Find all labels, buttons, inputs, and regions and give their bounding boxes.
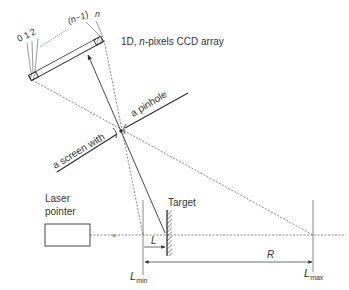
pixel-n-minus-1-label: (n−1) <box>66 9 89 26</box>
triangulation-diagram: 0 1 2 (n−1) n 1D, n-pixels CCD array a s… <box>0 0 349 290</box>
target <box>167 210 172 256</box>
lmax-label: Lmax <box>304 267 324 281</box>
ccd-array <box>29 36 104 80</box>
lmin-sub: min <box>136 277 147 284</box>
beam-cross-mark: × <box>112 232 116 239</box>
l-label: L <box>151 235 157 246</box>
screen-with-pinhole <box>57 93 188 172</box>
ccd-array-label: 1D, n-pixels CCD array <box>121 36 224 47</box>
laser-pointer-box <box>45 224 90 246</box>
laser-label-line2: pointer <box>45 206 76 217</box>
screen-label: a screen with <box>50 131 106 171</box>
laser-label-line1: Laser <box>45 193 71 204</box>
lmax-sub: max <box>310 274 324 281</box>
ccd-prefix: 1D, <box>121 36 139 47</box>
lmin-label: Lmin <box>130 270 148 284</box>
pixel-n-label: n <box>95 9 100 19</box>
r-label: R <box>267 249 274 260</box>
target-label: Target <box>168 197 196 208</box>
ccd-suffix: -pixels CCD array <box>145 36 224 47</box>
